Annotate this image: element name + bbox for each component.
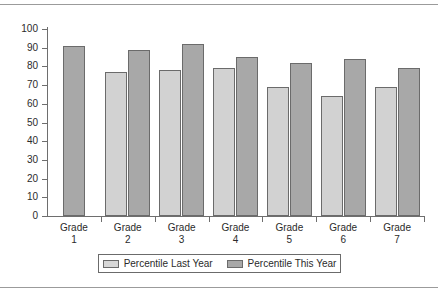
- bar-percentile-last-year: [375, 87, 397, 216]
- category-label-line2: 4: [209, 234, 263, 246]
- y-axis-tick: [42, 85, 47, 86]
- category-label-line2: 3: [155, 234, 209, 246]
- bar-percentile-this-year: [63, 46, 85, 216]
- y-axis-tick: [42, 141, 47, 142]
- y-axis-tick-label-text: 50: [4, 118, 38, 128]
- bar-chart-figure: 1009080706050403020100 Grade1Grade2Grade…: [0, 5, 438, 287]
- y-axis-tick-label-text: 60: [4, 99, 38, 109]
- bar-percentile-this-year: [398, 68, 420, 216]
- y-axis-tick: [42, 123, 47, 124]
- legend-entry: Percentile This Year: [227, 259, 337, 269]
- legend-swatch-icon: [227, 260, 243, 268]
- y-axis-tick-label-text: 70: [4, 80, 38, 90]
- y-axis-line: [47, 27, 48, 217]
- y-axis-tick-label: 10: [0, 192, 38, 202]
- bar-percentile-last-year: [105, 72, 127, 216]
- category-label-line2: 5: [262, 234, 316, 246]
- y-axis-tick-label-text: 0: [4, 211, 38, 221]
- y-axis-tick-label-text: 40: [4, 136, 38, 146]
- x-axis-category-label: Grade1: [47, 222, 101, 246]
- x-axis-category-label: Grade3: [155, 222, 209, 246]
- bar-percentile-last-year: [159, 70, 181, 216]
- x-axis-category-label: Grade4: [209, 222, 263, 246]
- x-axis-category-label: Grade5: [262, 222, 316, 246]
- y-axis-tick-label: 80: [0, 61, 38, 71]
- y-axis-tick-label-text: 100: [4, 24, 38, 34]
- x-axis-category-label: Grade6: [316, 222, 370, 246]
- category-label-line2: 2: [101, 234, 155, 246]
- bar-percentile-last-year: [213, 68, 235, 216]
- y-axis-tick-label-text: 80: [4, 61, 38, 71]
- category-label-line1: Grade: [370, 222, 424, 234]
- legend-label: Percentile Last Year: [124, 259, 213, 269]
- y-axis-tick-label-text: 20: [4, 174, 38, 184]
- bar-percentile-this-year: [236, 57, 258, 216]
- legend-entry: Percentile Last Year: [103, 259, 213, 269]
- category-label-line1: Grade: [47, 222, 101, 234]
- category-label-line2: 7: [370, 234, 424, 246]
- y-axis-tick-label: 50: [0, 118, 38, 128]
- bar-percentile-this-year: [290, 63, 312, 216]
- bar-percentile-last-year: [267, 87, 289, 216]
- y-axis-tick-label: 40: [0, 136, 38, 146]
- chart-legend: Percentile Last YearPercentile This Year: [98, 254, 341, 273]
- category-label-line1: Grade: [262, 222, 316, 234]
- category-label-line1: Grade: [316, 222, 370, 234]
- page-rule-bottom: [0, 287, 438, 288]
- y-axis-tick: [42, 104, 47, 105]
- y-axis-tick: [42, 29, 47, 30]
- y-axis-tick-label: 20: [0, 174, 38, 184]
- y-axis-tick: [42, 160, 47, 161]
- category-label-line1: Grade: [209, 222, 263, 234]
- y-axis-tick-label: 90: [0, 43, 38, 53]
- y-axis-tick-label-text: 10: [4, 192, 38, 202]
- y-axis-tick: [42, 179, 47, 180]
- x-axis-tick: [424, 217, 425, 222]
- y-axis-tick-label: 60: [0, 99, 38, 109]
- x-axis-category-label: Grade7: [370, 222, 424, 246]
- y-axis-tick: [42, 197, 47, 198]
- legend-swatch-icon: [103, 260, 119, 268]
- y-axis-tick-label: 70: [0, 80, 38, 90]
- y-axis-tick-label: 100: [0, 24, 38, 34]
- legend-label: Percentile This Year: [248, 259, 337, 269]
- category-label-line1: Grade: [155, 222, 209, 234]
- y-axis-tick: [42, 66, 47, 67]
- y-axis-tick-label-text: 90: [4, 43, 38, 53]
- y-axis-tick: [42, 216, 47, 217]
- x-axis-line: [47, 216, 425, 217]
- y-axis-tick-label: 30: [0, 155, 38, 165]
- category-label-line2: 6: [316, 234, 370, 246]
- bar-percentile-last-year: [321, 96, 343, 216]
- y-axis-tick-label: 0: [0, 211, 38, 221]
- category-label-line2: 1: [47, 234, 101, 246]
- bar-percentile-this-year: [128, 50, 150, 216]
- x-axis-category-label: Grade2: [101, 222, 155, 246]
- bar-percentile-this-year: [182, 44, 204, 216]
- bar-percentile-this-year: [344, 59, 366, 216]
- y-axis-tick-label-text: 30: [4, 155, 38, 165]
- y-axis-tick: [42, 48, 47, 49]
- category-label-line1: Grade: [101, 222, 155, 234]
